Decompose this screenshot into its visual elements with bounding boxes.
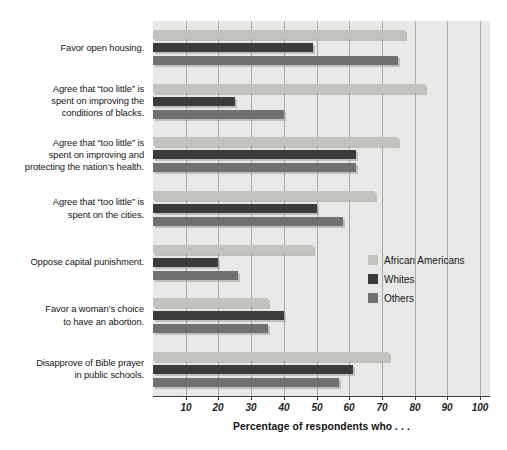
category-label-line: Agree that “too little” is — [0, 83, 144, 95]
bar — [153, 245, 316, 254]
bar — [153, 30, 408, 39]
bar — [153, 150, 359, 159]
bar — [153, 365, 356, 374]
category-label-line: conditions of blacks. — [0, 107, 144, 119]
x-tick-mark-50 — [317, 396, 318, 400]
x-tick-mark-100 — [480, 396, 481, 400]
bar-fill — [153, 137, 398, 146]
bar-fill — [153, 365, 353, 374]
bar — [153, 191, 378, 200]
x-tick-mark-60 — [349, 396, 350, 400]
category-label: Oppose capital punishment. — [0, 256, 144, 268]
bar — [153, 163, 359, 172]
category-label-line: Oppose capital punishment. — [0, 256, 144, 268]
bar — [153, 217, 346, 226]
category-label: Agree that “too little” isspent on the c… — [0, 196, 144, 220]
bar-fill — [153, 324, 268, 333]
x-tick-label-100: 100 — [460, 402, 500, 413]
category-label-line: spent on improving and — [0, 149, 144, 161]
legend-label: Whites — [384, 274, 415, 285]
grouped-bar-chart: Favor open housing.Agree that “too littl… — [0, 0, 507, 450]
bar — [153, 378, 342, 387]
category-label-line: spent on the cities. — [0, 209, 144, 221]
category-label: Disapprove of Bible prayerin public scho… — [0, 357, 144, 381]
bar — [153, 258, 221, 267]
x-tick-mark-70 — [382, 396, 383, 400]
bar — [153, 204, 320, 213]
x-tick-mark-90 — [447, 396, 448, 400]
bar — [153, 43, 316, 52]
bar — [153, 110, 287, 119]
bar-fill — [153, 191, 375, 200]
legend-label: African Americans — [384, 255, 465, 266]
category-label-line: spent on improving the — [0, 95, 144, 107]
bar-fill — [153, 150, 356, 159]
category-label-line: in public schools. — [0, 369, 144, 381]
category-label: Agree that “too little” isspent on impro… — [0, 137, 144, 174]
category-axis: Favor open housing.Agree that “too littl… — [0, 21, 150, 396]
bar — [153, 56, 401, 65]
legend-swatch-others — [368, 293, 378, 303]
bar-fill — [153, 56, 398, 65]
category-label-line: Agree that “too little” is — [0, 137, 144, 149]
x-tick-mark-10 — [186, 396, 187, 400]
bar — [153, 298, 271, 307]
x-tick-mark-30 — [251, 396, 252, 400]
legend-item: Whites — [368, 271, 465, 287]
bar-fill — [153, 245, 313, 254]
category-label-line: Disapprove of Bible prayer — [0, 357, 144, 369]
bar — [153, 352, 392, 361]
legend-item: African Americans — [368, 252, 465, 268]
bar-fill — [153, 163, 356, 172]
bar-group — [153, 30, 490, 65]
chart-legend: African AmericansWhitesOthers — [368, 252, 465, 309]
category-label-line: protecting the nation’s health. — [0, 161, 144, 173]
bar-fill — [153, 30, 405, 39]
bar — [153, 271, 241, 280]
category-label: Favor open housing. — [0, 42, 144, 54]
bar-group — [153, 191, 490, 226]
bar-fill — [153, 97, 235, 106]
bar-fill — [153, 311, 284, 320]
x-axis-line — [153, 396, 490, 397]
legend-swatch-african-americans — [368, 255, 378, 265]
bar-fill — [153, 217, 343, 226]
legend-label: Others — [384, 293, 414, 304]
legend-item: Others — [368, 290, 465, 306]
x-axis-title: Percentage of respondents who . . . — [153, 421, 490, 432]
x-tick-mark-80 — [415, 396, 416, 400]
bar — [153, 84, 428, 93]
bar-fill — [153, 84, 425, 93]
bar-group — [153, 137, 490, 172]
bar-group — [153, 84, 490, 119]
x-tick-mark-40 — [284, 396, 285, 400]
bar — [153, 311, 287, 320]
category-label: Agree that “too little” isspent on impro… — [0, 83, 144, 120]
bar — [153, 324, 271, 333]
x-tick-mark-20 — [218, 396, 219, 400]
plot-area — [153, 21, 490, 396]
category-label-line: to have an abortion. — [0, 316, 144, 328]
bar-group — [153, 352, 490, 387]
bar — [153, 137, 401, 146]
bar — [153, 97, 238, 106]
bar-fill — [153, 378, 339, 387]
bar-fill — [153, 298, 268, 307]
bar-fill — [153, 43, 313, 52]
bar-fill — [153, 258, 218, 267]
category-label-line: Favor open housing. — [0, 42, 144, 54]
legend-swatch-whites — [368, 274, 378, 284]
bar-fill — [153, 204, 317, 213]
bar-fill — [153, 352, 389, 361]
bar-fill — [153, 110, 284, 119]
bar-fill — [153, 271, 238, 280]
category-label-line: Favor a woman’s choice — [0, 303, 144, 315]
category-label: Favor a woman’s choiceto have an abortio… — [0, 303, 144, 327]
category-label-line: Agree that “too little” is — [0, 196, 144, 208]
